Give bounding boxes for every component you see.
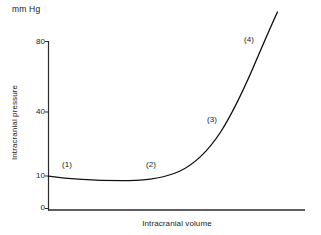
y-tick-label-10: 10 — [23, 171, 45, 180]
curve-annotation-1: (1) — [62, 160, 72, 169]
unit-label: mm Hg — [12, 4, 40, 14]
chart-plot-area — [0, 0, 321, 235]
y-axis-label: Intracranial pressure — [10, 63, 19, 183]
curve-annotation-3: (3) — [207, 115, 217, 124]
chart-figure: mm Hg Intracranial pressure Intracranial… — [0, 0, 321, 235]
x-axis-label: Intracranial volume — [48, 219, 306, 228]
curve-annotation-2: (2) — [146, 160, 156, 169]
y-tick-label-80: 80 — [23, 37, 45, 46]
curve-annotation-4: (4) — [244, 35, 254, 44]
y-tick-label-0: 0 — [23, 203, 45, 212]
y-tick-label-40: 40 — [23, 107, 45, 116]
